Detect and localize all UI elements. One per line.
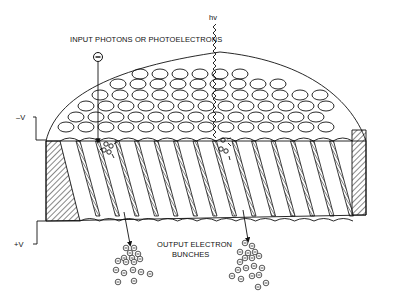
output-label-line2: BUNCHES — [172, 250, 209, 259]
output-electron-bunch-left — [113, 245, 153, 285]
plate-bottom-edge — [80, 219, 353, 222]
output-electron-bunch-right — [229, 240, 269, 290]
microchannel-plate-diagram: –V +V INPUT PHOTONS OR PHOTOELECTRONS hv… — [0, 0, 398, 305]
output-label-line1: OUTPUT ELECTRON — [157, 240, 232, 249]
channel-walls — [76, 141, 354, 216]
left-electrode-edge — [46, 141, 80, 221]
output-arrow-right — [243, 210, 248, 240]
neg-voltage-label: –V — [16, 113, 25, 122]
channel-openings — [58, 69, 334, 132]
neg-voltage-lead — [33, 117, 46, 140]
right-hatched-block — [352, 130, 366, 215]
input-label: INPUT PHOTONS OR PHOTOELECTRONS — [70, 35, 222, 44]
output-arrow-left — [124, 212, 130, 244]
pos-voltage-lead — [33, 221, 46, 244]
photon-label: hv — [209, 13, 217, 22]
input-electron-icon — [94, 53, 103, 62]
pos-voltage-label: +V — [14, 240, 24, 249]
